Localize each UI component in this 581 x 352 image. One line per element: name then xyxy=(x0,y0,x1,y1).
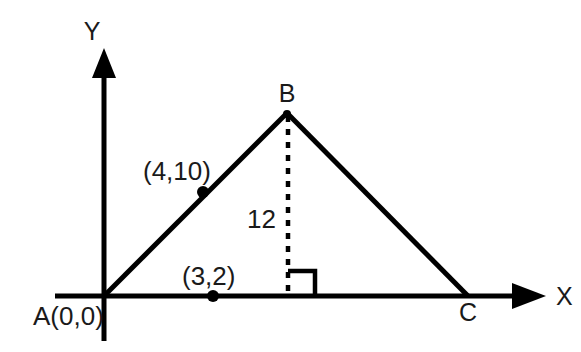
y-axis-label: Y xyxy=(84,17,101,45)
vertex-b-label: B xyxy=(279,79,296,107)
triangle-side-bc xyxy=(287,113,468,296)
geometry-diagram: Y X B C A(0,0) (4,10) (3,2) 12 xyxy=(0,0,581,352)
arrow-right-icon xyxy=(512,283,546,309)
right-angle-marker xyxy=(288,271,315,296)
point-on-ab-label: (4,10) xyxy=(143,156,211,186)
point-on-axis-label: (3,2) xyxy=(182,261,235,291)
point-marker-on-axis xyxy=(207,290,219,302)
vertex-c-label: C xyxy=(459,298,477,326)
altitude-length-label: 12 xyxy=(247,204,276,234)
arrow-up-icon xyxy=(92,48,116,78)
vertex-marker-b xyxy=(283,110,291,118)
point-marker-on-ab xyxy=(197,186,209,198)
diagram-canvas: Y X B C A(0,0) (4,10) (3,2) 12 xyxy=(0,0,581,352)
vertex-a-label: A(0,0) xyxy=(33,301,104,331)
x-axis-label: X xyxy=(556,282,573,310)
